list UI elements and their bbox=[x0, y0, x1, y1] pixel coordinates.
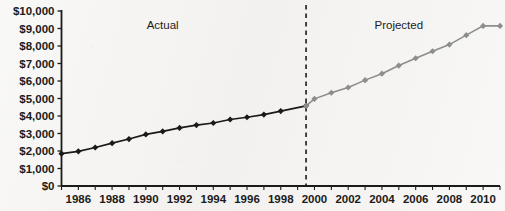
x-axis-tick-label: 1990 bbox=[133, 193, 159, 205]
axis-spines bbox=[62, 10, 501, 186]
data-point-marker-projected bbox=[345, 84, 351, 90]
y-axis-tick-label: $3,000 bbox=[19, 128, 54, 140]
x-axis-tick-label: 1992 bbox=[167, 193, 193, 205]
data-point-marker-projected bbox=[480, 23, 486, 29]
x-axis-tick-label: 2004 bbox=[369, 193, 395, 205]
y-axis-tick-label: $10,000 bbox=[13, 5, 55, 17]
x-axis-tick-label: 2002 bbox=[335, 193, 361, 205]
data-point-marker-actual bbox=[143, 131, 149, 137]
data-point-marker-projected bbox=[379, 71, 385, 77]
series-markers bbox=[58, 23, 503, 157]
x-axis-tick-label: 1988 bbox=[99, 193, 125, 205]
data-point-marker-projected bbox=[328, 90, 334, 96]
x-axis-tick-label: 1994 bbox=[200, 193, 226, 205]
x-axis-tick-labels: 1986198819901992199419961998200020022004… bbox=[66, 193, 496, 205]
data-point-marker-actual bbox=[176, 125, 182, 131]
x-axis-tick-label: 1996 bbox=[234, 193, 260, 205]
x-axis-tick-label: 2006 bbox=[403, 193, 429, 205]
data-point-marker-actual bbox=[244, 114, 250, 120]
y-axis-tick-labels: $10,000$9,000$8,000$7,000$6,000$5,000$4,… bbox=[13, 5, 55, 192]
region-label-actual: Actual bbox=[147, 19, 179, 31]
data-point-marker-actual bbox=[278, 108, 284, 114]
x-axis-tick-label: 2008 bbox=[437, 193, 463, 205]
x-axis-tick-label: 1998 bbox=[268, 193, 294, 205]
data-point-marker-actual bbox=[261, 112, 267, 118]
region-label-projected: Projected bbox=[375, 19, 424, 31]
data-point-marker-projected bbox=[497, 23, 503, 29]
data-point-marker-actual bbox=[126, 136, 132, 142]
y-axis-tick-label: $7,000 bbox=[19, 58, 54, 70]
y-axis-tick-label: $4,000 bbox=[19, 110, 54, 122]
series-lines bbox=[62, 26, 501, 154]
region-annotations: ActualProjected bbox=[147, 19, 423, 31]
data-point-marker-actual bbox=[92, 144, 98, 150]
data-point-marker-projected bbox=[413, 55, 419, 61]
y-axis-tick-label: $6,000 bbox=[19, 75, 54, 87]
data-point-marker-projected bbox=[429, 48, 435, 54]
data-point-marker-actual bbox=[193, 122, 199, 128]
x-axis-tick-label: 1986 bbox=[66, 193, 92, 205]
x-axis-tick-label: 2000 bbox=[302, 193, 328, 205]
y-axis-tick-label: $8,000 bbox=[19, 40, 54, 52]
data-point-marker-projected bbox=[396, 63, 402, 69]
data-point-marker-actual bbox=[210, 120, 216, 126]
series-line-actual bbox=[62, 106, 307, 154]
data-point-marker-actual bbox=[160, 128, 166, 134]
data-point-marker-projected bbox=[446, 42, 452, 48]
data-point-marker-actual bbox=[227, 116, 233, 122]
y-axis-tick-label: $9,000 bbox=[19, 23, 54, 35]
data-point-marker-actual bbox=[75, 148, 81, 154]
line-chart-plot: $10,000$9,000$8,000$7,000$6,000$5,000$4,… bbox=[0, 0, 505, 211]
data-point-marker-actual bbox=[109, 140, 115, 146]
data-point-marker-projected bbox=[463, 32, 469, 38]
series-line-projected bbox=[306, 26, 500, 106]
y-axis-tick-label: $5,000 bbox=[19, 93, 54, 105]
x-axis-tick-label: 2010 bbox=[470, 193, 496, 205]
data-point-marker-projected bbox=[362, 77, 368, 83]
chart-container: $10,000$9,000$8,000$7,000$6,000$5,000$4,… bbox=[0, 0, 505, 211]
y-axis-tick-label: $2,000 bbox=[19, 145, 54, 157]
y-axis-tick-label: $0 bbox=[42, 180, 55, 192]
y-axis-tick-label: $1,000 bbox=[19, 163, 54, 175]
